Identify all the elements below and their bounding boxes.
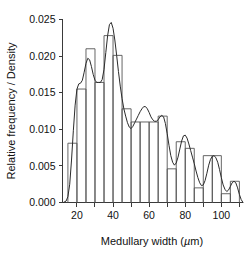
x-tick-label: 100 [213,209,231,221]
histogram-bars [68,36,239,203]
x-tick-label: 60 [143,209,155,221]
y-tick-label: 0.005 [29,160,55,172]
y-axis-group: 0.0000.0050.0100.0150.0200.025 [29,13,62,208]
y-axis-tick-labels: 0.0000.0050.0100.0150.0200.025 [29,13,55,208]
y-tick-label: 0.010 [29,123,55,135]
y-axis-title: Relative frequency / Density [5,42,17,179]
density-curve [63,22,243,202]
y-axis-ticks [59,20,63,203]
histogram-density-figure: 0.0000.0050.0100.0150.0200.025 204060801… [0,0,249,254]
y-tick-label: 0.000 [29,196,55,208]
x-axis-tick-labels: 20406080100 [71,209,230,221]
x-tick-label: 80 [179,209,191,221]
y-tick-label: 0.015 [29,86,55,98]
x-axis-title: Medullary width (µm) [101,235,203,247]
y-tick-label: 0.025 [29,13,55,25]
y-tick-label: 0.020 [29,50,55,62]
x-tick-label: 40 [107,209,119,221]
chart-canvas: 0.0000.0050.0100.0150.0200.025 204060801… [0,0,249,254]
x-tick-label: 20 [71,209,83,221]
x-axis-group: 20406080100 [63,203,244,221]
x-axis-ticks [77,203,239,207]
